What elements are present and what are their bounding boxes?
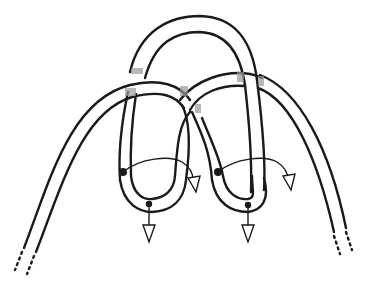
right-loop-arrows <box>214 158 295 242</box>
left-standing-strand <box>15 82 190 274</box>
right-pull-arrowhead <box>242 225 254 242</box>
shade-mid <box>180 86 188 96</box>
right-standing-strand <box>258 75 352 254</box>
shade-left-under <box>125 88 136 96</box>
shade-mid-2 <box>195 104 201 113</box>
shade-right-under <box>258 76 264 86</box>
left-strand-dotted-end-2 <box>27 256 34 274</box>
shade-right-top <box>237 72 244 82</box>
left-strand-dotted-end <box>15 252 22 270</box>
shade-top-left <box>131 68 143 74</box>
right-rotation-arrowhead <box>283 174 295 190</box>
right-loop <box>192 112 266 212</box>
knot-diagram <box>0 0 382 281</box>
right-strand-dotted-end-2 <box>334 236 340 254</box>
left-loop <box>119 92 190 212</box>
left-rotation-arrowhead <box>188 176 200 192</box>
middle-arch <box>180 73 262 110</box>
left-rotation-arrow <box>123 158 193 180</box>
right-strand-dotted-end <box>346 232 352 250</box>
left-pull-arrowhead <box>143 225 155 242</box>
